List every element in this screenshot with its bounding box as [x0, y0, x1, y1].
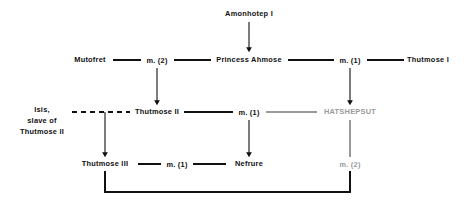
node-hatshepsut: HATSHEPSUT: [324, 107, 376, 117]
node-thutmose-i: Thutmose I: [407, 55, 449, 65]
node-thutmose-ii: Thutmose II: [135, 107, 179, 117]
diagram-connector-layer: [0, 0, 467, 202]
marriage-label-m1-ahmose-thutmose-i: m. (1): [336, 56, 363, 65]
marriage-label-m1-thutmose-iii-nefrure: m. (1): [163, 160, 190, 169]
marriage-label-m1-thutmose-ii-hatshepsut: m. (1): [235, 108, 262, 117]
node-isis-slave-of-thutmose-ii: Isis, slave of Thutmose II: [20, 104, 64, 137]
node-thutmose-iii: Thutmose III: [82, 159, 129, 169]
node-nefrure: Nefrure: [235, 159, 263, 169]
bracket-thutmose-iii-to-m2: [105, 171, 350, 192]
node-amonhotep-i: Amonhotep I: [225, 9, 273, 19]
marriage-label-m2-hatshepsut: m. (2): [336, 160, 363, 169]
genealogy-diagram: Amonhotep I Mutofret Princess Ahmose Thu…: [0, 0, 467, 202]
node-princess-ahmose: Princess Ahmose: [216, 55, 282, 65]
marriage-label-m2-mutofret-ahmose: m. (2): [143, 56, 170, 65]
node-mutofret: Mutofret: [74, 55, 106, 65]
